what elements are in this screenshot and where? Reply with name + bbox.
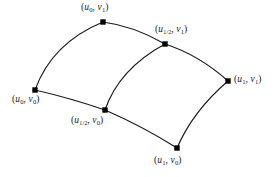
- node-marker-uhalf-v0: [102, 107, 107, 112]
- label-close-paren: ): [184, 24, 187, 34]
- label-u-subscript: 1: [242, 78, 245, 85]
- node-marker-u1-v1: [225, 78, 230, 83]
- label-u-subscript: 0: [89, 6, 92, 13]
- node-label-u0-v1: (u0, v1): [81, 3, 108, 13]
- node-marker-uhalf-v1: [162, 41, 167, 46]
- node-label-u1-v0: (u1, v0): [154, 156, 181, 166]
- curve-group: [35, 22, 228, 148]
- label-u-subscript: 0: [20, 98, 23, 105]
- label-v-subscript: 1: [255, 78, 258, 85]
- label-close-paren: ): [100, 115, 103, 125]
- curve-middle-vertical-arc: [105, 44, 165, 110]
- node-label-uhalf-v0: (u1/2, v0): [71, 116, 103, 126]
- label-close-paren: ): [36, 94, 39, 104]
- curve-right-boundary-arc: [177, 81, 228, 148]
- curve-bottom-left-arc: [35, 90, 105, 110]
- curve-bottom-right-arc: [105, 110, 177, 148]
- curve-top-right-arc: [165, 44, 228, 81]
- label-v-subscript: 0: [175, 159, 178, 166]
- label-close-paren: ): [178, 155, 181, 165]
- node-marker-u1-v0: [174, 145, 179, 150]
- node-label-u1-v1: (u1, v1): [234, 75, 261, 85]
- node-label-uhalf-v1: (u1/2, v1): [155, 25, 187, 35]
- node-label-u0-v0: (u0, v0): [12, 95, 39, 105]
- node-marker-group: [32, 19, 230, 150]
- label-v-subscript: 1: [181, 28, 184, 35]
- patch-diagram: [0, 0, 275, 177]
- label-v-subscript: 0: [33, 98, 36, 105]
- label-close-paren: ): [105, 2, 108, 12]
- label-close-paren: ): [258, 74, 261, 84]
- node-marker-u0-v0: [32, 87, 37, 92]
- label-u-subscript: 1/2: [79, 119, 87, 126]
- label-u-subscript: 1: [162, 159, 165, 166]
- label-v-var: v: [176, 24, 180, 34]
- label-v-var: v: [92, 115, 96, 125]
- label-v-subscript: 0: [97, 119, 100, 126]
- curve-left-boundary-arc: [35, 22, 103, 90]
- label-u-subscript: 1/2: [163, 28, 171, 35]
- label-v-subscript: 1: [102, 6, 105, 13]
- node-marker-u0-v1: [100, 19, 105, 24]
- figure-canvas: (u0, v1) (u1/2, v1) (u1, v1) (u0, v0) (u…: [0, 0, 275, 177]
